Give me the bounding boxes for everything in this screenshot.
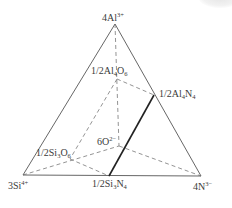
point-label-si3o6: 1/2Si3O6 — [36, 148, 71, 161]
vertex-label-3si: 3Si4+ — [8, 178, 28, 191]
edge-left-right — [23, 175, 201, 176]
point-label-si3n4: 1/2Si3N4 — [92, 179, 127, 192]
vertex-label-4al: 4Al3+ — [102, 10, 124, 23]
dashed-edge-o6-right — [119, 146, 201, 176]
phase-diagram: 4Al3+ 3Si4+ 4N3− 1/2Al4O6 1/2Al4N4 6O2− … — [0, 0, 232, 208]
point-label-al4n4: 1/2Al4N4 — [159, 89, 196, 102]
vertex-label-4n: 4N3− — [193, 179, 212, 192]
dashed-edge-top-o6 — [115, 24, 119, 146]
diagram-lines — [0, 0, 232, 208]
point-label-6o: 6O2− — [97, 134, 116, 147]
point-label-al4o6: 1/2Al4O6 — [91, 66, 128, 79]
dashed-edge-si3o6-si3n4 — [70, 159, 109, 176]
dashed-edge-al4o6-al4n4 — [117, 79, 154, 95]
dashed-edge-al4o6-si3o6 — [70, 79, 117, 159]
